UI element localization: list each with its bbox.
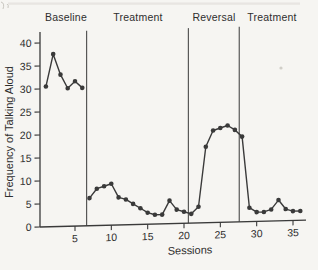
y-tick-label: 15 (20, 152, 32, 164)
y-tick-label: 35 (20, 60, 32, 72)
y-tick-label: 0 (26, 221, 32, 233)
data-point (87, 196, 92, 201)
y-axis-title: Frequency of Talking Aloud (3, 66, 15, 198)
data-point (298, 209, 303, 214)
data-point (196, 204, 201, 209)
phase-label-treatment-2: Treatment (247, 11, 296, 23)
x-axis-line (40, 220, 306, 227)
plot-area: 05101520253035405101520253035 Sessions (20, 25, 306, 260)
phase-label-baseline: Baseline (45, 11, 87, 23)
data-point (182, 209, 187, 214)
y-tick-label: 10 (20, 175, 32, 187)
data-point (269, 207, 274, 212)
x-tick-label: 15 (142, 230, 154, 242)
x-tick-label: 35 (287, 226, 299, 238)
x-tick-label: 5 (72, 232, 78, 244)
data-line (90, 124, 301, 217)
x-axis-title: Sessions (168, 243, 213, 256)
x-tick-label: 30 (251, 227, 263, 239)
scan-streak-top (8, 3, 300, 5)
scan-speck (279, 66, 282, 69)
x-tick-label: 25 (214, 228, 226, 240)
data-point (160, 212, 165, 217)
data-point (51, 52, 56, 57)
y-tick-label: 20 (20, 129, 32, 141)
scanned-figure-page: Baseline Treatment Reversal Treatment 05… (0, 0, 318, 270)
y-tick-label: 40 (20, 37, 32, 49)
y-tick-label: 25 (20, 106, 32, 118)
data-point (153, 212, 158, 217)
data-point (102, 184, 107, 189)
data-point (204, 144, 209, 149)
x-tick-label: 10 (105, 231, 117, 243)
data-point (262, 210, 267, 215)
data-series (44, 45, 303, 220)
y-tick-label: 30 (20, 83, 32, 95)
reversal-design-chart: Baseline Treatment Reversal Treatment 05… (0, 0, 318, 270)
data-point (95, 186, 100, 191)
data-point (44, 84, 49, 89)
data-point (291, 209, 296, 214)
phase-dividers (87, 27, 240, 226)
data-point (189, 211, 194, 216)
data-point (211, 128, 216, 133)
phase-label-reversal: Reversal (192, 11, 235, 23)
phase-label-treatment-1: Treatment (113, 11, 162, 23)
data-point (218, 126, 223, 131)
x-tick-label: 20 (178, 229, 190, 241)
y-tick-label: 5 (26, 198, 32, 210)
phase-labels: Baseline Treatment Reversal Treatment (45, 11, 297, 23)
data-line (46, 53, 82, 88)
scan-mark-corner (1, 2, 8, 9)
